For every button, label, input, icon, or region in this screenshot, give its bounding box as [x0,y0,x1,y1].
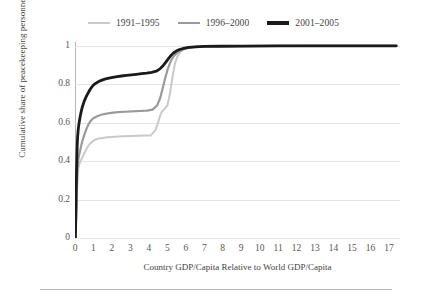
legend-swatch-icon [178,22,200,25]
x-tick-label: 14 [324,243,344,253]
chart-figure: 1991–19951996–20002001–2005 00.20.40.60.… [0,0,427,300]
legend-item[interactable]: 2001–2005 [267,18,339,28]
y-tick-label: 0.8 [42,78,70,88]
y-tick-label: 0 [42,232,70,242]
legend-swatch-icon [267,21,289,25]
x-tick-label: 10 [250,243,270,253]
y-tick-label: 0.4 [42,155,70,165]
x-tick-label: 17 [379,243,399,253]
x-tick-label: 12 [287,243,307,253]
gridline [75,238,400,239]
series-line [75,46,396,238]
legend-swatch-icon [88,22,110,24]
x-tick-label: 1 [83,243,103,253]
legend-item[interactable]: 1996–2000 [178,18,250,28]
x-tick-label: 9 [231,243,251,253]
x-tick-label: 2 [102,243,122,253]
x-tick-label: 3 [120,243,140,253]
x-tick-label: 11 [268,243,288,253]
legend-label: 1996–2000 [206,18,250,28]
y-axis-title: Cumulative share of peacekeeping personn… [17,0,27,177]
x-axis-title: Country GDP/Capita Relative to World GDP… [75,262,400,272]
chart-legend: 1991–19951996–20002001–2005 [0,18,427,28]
x-tick-label: 8 [213,243,233,253]
x-tick-label: 7 [194,243,214,253]
x-tick-label: 16 [360,243,380,253]
legend-item[interactable]: 1991–1995 [88,18,160,28]
plot-area [75,42,400,238]
footer-divider [40,289,392,290]
x-tick-label: 4 [139,243,159,253]
y-tick-label: 0.2 [42,194,70,204]
x-tick-label: 13 [305,243,325,253]
legend-label: 1991–1995 [116,18,160,28]
x-tick-label: 15 [342,243,362,253]
legend-label: 2001–2005 [295,18,339,28]
chart-series-svg [75,42,400,238]
y-tick-label: 1 [42,40,70,50]
x-tick-label: 5 [157,243,177,253]
x-tick-label: 6 [176,243,196,253]
x-tick-label: 0 [65,243,85,253]
y-tick-label: 0.6 [42,117,70,127]
